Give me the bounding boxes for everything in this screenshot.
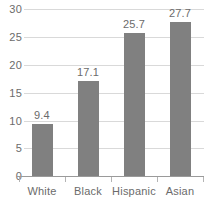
bar-value-asian: 27.7 xyxy=(160,8,200,19)
bar-chart: 30 25 20 15 10 5 0 9.4 17.1 25.7 27.7 Wh… xyxy=(0,0,206,202)
x-axis-tick-0 xyxy=(19,177,20,182)
x-axis-tick-2 xyxy=(111,177,112,182)
x-axis-label-asian: Asian xyxy=(152,185,206,197)
x-axis-tick-4 xyxy=(203,177,204,182)
bar-white xyxy=(32,124,53,176)
bar-asian xyxy=(170,22,191,176)
bar-hispanic xyxy=(124,33,145,176)
y-axis-tick-25: 25 xyxy=(2,32,22,43)
y-axis-tick-15: 15 xyxy=(2,88,22,99)
bar-value-hispanic: 25.7 xyxy=(114,19,154,30)
y-axis-tick-5: 5 xyxy=(2,143,22,154)
y-axis-tick-20: 20 xyxy=(2,60,22,71)
x-axis-tick-1 xyxy=(65,177,66,182)
bar-value-white: 9.4 xyxy=(22,110,62,121)
y-axis-tick-10: 10 xyxy=(2,116,22,127)
x-axis-tick-3 xyxy=(157,177,158,182)
bar-black xyxy=(78,81,99,176)
y-axis-tick-30: 30 xyxy=(2,4,22,15)
bar-value-black: 17.1 xyxy=(68,67,108,78)
